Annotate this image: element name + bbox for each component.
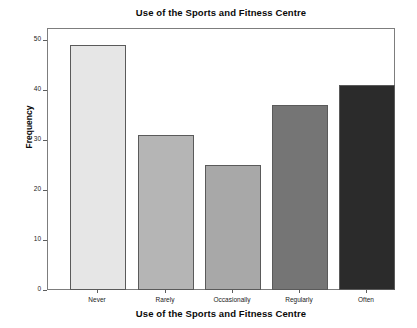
y-axis-tick-30: 30 [0, 140, 47, 141]
y-axis-label: Frequency [24, 67, 34, 187]
x-tick-mark-never [97, 290, 98, 293]
bar-rarely[interactable] [138, 135, 194, 290]
chart-title: Use of the Sports and Fitness Centre [47, 7, 395, 18]
bar-chart-figure: Use of the Sports and Fitness Centre Fre… [0, 0, 417, 328]
y-tick-mark-0 [43, 290, 47, 291]
y-tick-label-50: 50 [34, 35, 41, 42]
y-tick-label-40: 40 [34, 85, 41, 92]
x-tick-mark-regularly [299, 290, 300, 293]
x-axis-label-often: Often [326, 296, 406, 303]
y-tick-label-10: 10 [34, 235, 41, 242]
x-tick-mark-occasionally [232, 290, 233, 293]
y-axis-tick-10: 10 [0, 240, 47, 241]
y-axis-tick-20: 20 [0, 190, 47, 191]
bar-often[interactable] [339, 85, 395, 290]
y-axis-tick-50: 50 [0, 40, 47, 41]
x-tick-mark-often [366, 290, 367, 293]
y-axis-tick-40: 40 [0, 90, 47, 91]
bar-never[interactable] [70, 45, 126, 290]
x-axis-title: Use of the Sports and Fitness Centre [47, 308, 395, 319]
bar-occasionally[interactable] [205, 165, 261, 290]
x-tick-mark-rarely [165, 290, 166, 293]
y-tick-label-30: 30 [34, 135, 41, 142]
y-tick-label-20: 20 [34, 185, 41, 192]
bars-layer [47, 28, 395, 290]
y-axis-tick-0: 0 [0, 290, 47, 291]
y-tick-label-0: 0 [37, 285, 41, 292]
bar-regularly[interactable] [272, 105, 328, 290]
